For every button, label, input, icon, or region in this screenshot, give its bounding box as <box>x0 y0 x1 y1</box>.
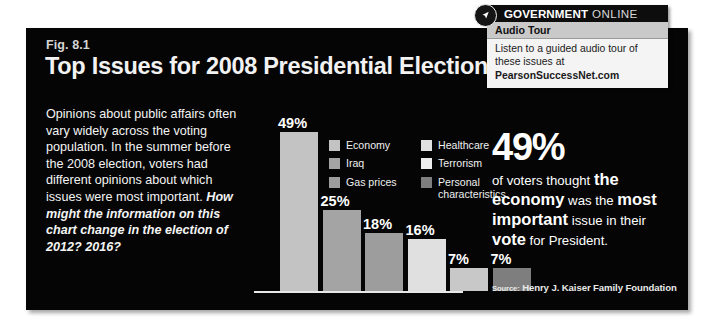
audio-tour-description: Listen to a guided audio tour of these i… <box>495 43 638 67</box>
legend-item: Personal characteristics <box>421 176 503 201</box>
figure-description: Opinions about public affairs often vary… <box>46 106 246 255</box>
government-online-brand-light: ONLINE <box>592 7 638 20</box>
chart-bar-group: 16% <box>408 217 446 291</box>
legend-column: HealthcareTerrorismPersonal characterist… <box>421 139 503 201</box>
source-citation: Source: Henry J. Kaiser Family Foundatio… <box>492 282 677 293</box>
callout-line1-bold: the <box>594 170 619 188</box>
source-value: Henry J. Kaiser Family Foundation <box>522 282 677 293</box>
chart-bar-value-label: 16% <box>406 222 435 238</box>
callout-body-text: of voters thought the economy was the mo… <box>492 170 674 250</box>
callout-line4-bold: vote <box>492 230 526 248</box>
legend-item: Healthcare <box>421 139 503 151</box>
callout-line3-bold-a: important <box>492 210 568 228</box>
legend-item: Gas prices <box>329 176 411 188</box>
legend-column: EconomyIraqGas prices <box>329 139 411 201</box>
callout-big-number: 49% <box>492 128 674 166</box>
chart-bar-group: 49% <box>280 110 318 291</box>
callout-line4-regular: for President. <box>526 233 608 248</box>
chart-bar <box>280 132 318 291</box>
page-title: Top Issues for 2008 Presidential Electio… <box>45 53 488 80</box>
government-online-box[interactable]: GOVERNMENT ONLINE Audio Tour Listen to a… <box>487 5 668 88</box>
chart-bar-group: 7% <box>450 246 488 291</box>
statistic-callout: 49% of voters thought the economy was th… <box>492 128 674 250</box>
legend-swatch <box>329 140 340 151</box>
arrow-cursor-icon <box>474 4 497 27</box>
government-online-brand-strong: GOVERNMENT <box>504 7 588 20</box>
legend-label: Terrorism <box>438 157 482 169</box>
chart-bar-value-label: 7% <box>491 251 512 267</box>
government-online-header: GOVERNMENT ONLINE <box>487 5 668 22</box>
chart-bar-value-label: 49% <box>278 115 307 131</box>
legend-item: Iraq <box>329 157 411 169</box>
legend-swatch <box>421 177 432 188</box>
callout-line2-regular-a: was the <box>564 193 617 208</box>
legend-item: Terrorism <box>421 157 503 169</box>
callout-line2-bold-b: most <box>617 190 656 208</box>
legend-label: Gas prices <box>346 176 397 188</box>
audio-tour-body: Listen to a guided audio tour of these i… <box>487 39 668 88</box>
callout-line1-regular: of voters thought <box>492 173 594 188</box>
legend-swatch <box>421 140 432 151</box>
chart-bar <box>365 233 403 291</box>
legend-item: Economy <box>329 139 411 151</box>
legend-label: Economy <box>346 139 390 151</box>
audio-tour-title: Audio Tour <box>487 22 668 39</box>
audio-tour-url[interactable]: PearsonSuccessNet.com <box>495 69 661 82</box>
chart-bar-value-label: 7% <box>448 251 469 267</box>
legend-swatch <box>329 158 340 169</box>
chart-baseline <box>254 291 463 293</box>
legend-label: Healthcare <box>438 139 489 151</box>
chart-bar-group: 25% <box>323 188 361 291</box>
source-label: Source: <box>492 284 520 293</box>
chart-bar <box>323 210 361 291</box>
chart-bar-value-label: 18% <box>363 216 392 232</box>
chart-bar <box>450 268 488 291</box>
chart-legend: EconomyIraqGas pricesHealthcareTerrorism… <box>329 139 509 201</box>
callout-line3-regular-a: issue in their <box>568 213 646 228</box>
legend-swatch <box>329 177 340 188</box>
chart-bar <box>408 239 446 291</box>
chart-bar-group: 18% <box>365 211 403 291</box>
figure-number: Fig. 8.1 <box>46 38 90 52</box>
legend-label: Iraq <box>346 157 364 169</box>
legend-swatch <box>421 158 432 169</box>
callout-line2-bold-a: economy <box>492 190 564 208</box>
